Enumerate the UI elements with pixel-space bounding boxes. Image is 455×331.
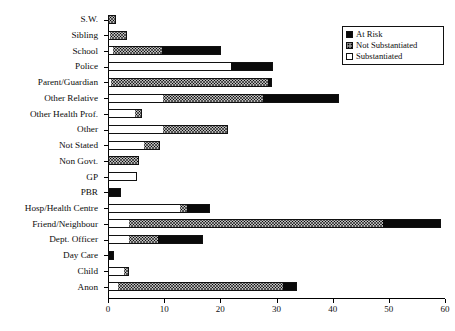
x-tick-label-60: 60 xyxy=(441,304,450,314)
category-label: Not Stated xyxy=(59,140,98,150)
bar-row xyxy=(108,31,127,40)
category-label: School xyxy=(72,46,98,56)
bar-segment-at-risk xyxy=(263,94,339,103)
bar-segment-substantiated xyxy=(108,125,164,134)
category-label: Child xyxy=(78,266,98,276)
category-label: Other xyxy=(77,124,98,134)
x-tick-0 xyxy=(108,299,109,303)
bar-segment-substantiated xyxy=(108,62,232,71)
x-tick-label-10: 10 xyxy=(160,304,169,314)
bar-row xyxy=(108,125,228,134)
category-label: Parent/Guardian xyxy=(38,77,98,87)
bar-row xyxy=(108,15,116,24)
legend-item-at-risk: At Risk xyxy=(346,29,440,39)
chart-legend: At Risk Not Substantiated Substantiated xyxy=(342,26,444,65)
category-label: S.W. xyxy=(80,14,98,24)
x-tick-20 xyxy=(220,299,221,303)
x-tick-60 xyxy=(445,299,446,303)
bar-row xyxy=(108,267,129,276)
x-tick-30 xyxy=(277,299,278,303)
category-label: Hosp/Health Centre xyxy=(25,203,98,213)
bar-row xyxy=(108,62,273,71)
bar-segment-not-substantiated xyxy=(144,141,161,150)
horizontal-stacked-bar-chart: 0102030405060 S.W.SiblingSchoolPolicePar… xyxy=(0,0,455,331)
bar-row xyxy=(108,219,441,228)
legend-item-substantiated: Substantiated xyxy=(346,51,440,61)
bar-row xyxy=(108,251,114,260)
empty-white-swatch-icon xyxy=(346,53,353,60)
category-label: Anon xyxy=(78,282,98,292)
bar-row xyxy=(108,46,221,55)
bar-segment-substantiated xyxy=(108,172,137,181)
category-label: PBR xyxy=(81,187,98,197)
legend-item-not-substantiated: Not Substantiated xyxy=(346,40,440,50)
bar-row xyxy=(108,78,272,87)
category-label: Other Health Prof. xyxy=(30,109,98,119)
category-label: Other Relative xyxy=(44,93,98,103)
category-label: GP xyxy=(86,172,98,182)
bar-segment-substantiated xyxy=(108,235,130,244)
category-label: Day Care xyxy=(63,250,98,260)
bar-segment-not-substantiated xyxy=(118,282,284,291)
bar-segment-substantiated xyxy=(108,94,164,103)
bar-segment-not-substantiated xyxy=(129,235,159,244)
bar-segment-substantiated xyxy=(108,109,136,118)
bar-segment-not-substantiated xyxy=(113,46,164,55)
bar-segment-substantiated xyxy=(108,141,145,150)
x-tick-label-50: 50 xyxy=(384,304,393,314)
bar-segment-not-substantiated xyxy=(111,78,268,87)
bar-segment-at-risk xyxy=(108,188,121,197)
x-tick-label-30: 30 xyxy=(272,304,281,314)
bar-segment-not-substantiated xyxy=(108,156,139,165)
bar-segment-at-risk xyxy=(268,78,272,87)
bar-segment-not-substantiated xyxy=(109,15,116,24)
category-label: Police xyxy=(75,61,98,71)
bar-segment-not-substantiated xyxy=(163,94,264,103)
bar-row xyxy=(108,109,142,118)
category-label: Dept. Officer xyxy=(49,234,98,244)
x-tick-50 xyxy=(389,299,390,303)
x-tick-label-20: 20 xyxy=(216,304,225,314)
stippled-gray-swatch-icon xyxy=(346,42,353,49)
bar-row xyxy=(108,94,339,103)
bar-row xyxy=(108,235,203,244)
bar-segment-not-substantiated xyxy=(124,267,130,276)
bar-row xyxy=(108,188,121,197)
category-label: Sibling xyxy=(71,30,98,40)
bar-row xyxy=(108,141,160,150)
bar-row xyxy=(108,204,210,213)
bar-segment-substantiated xyxy=(108,267,125,276)
bar-segment-substantiated xyxy=(108,204,181,213)
bar-segment-at-risk xyxy=(231,62,273,71)
legend-label-substantiated: Substantiated xyxy=(356,51,402,61)
bar-row xyxy=(108,282,297,291)
bar-segment-not-substantiated xyxy=(129,219,383,228)
bar-row xyxy=(108,156,139,165)
legend-label-not-substantiated: Not Substantiated xyxy=(356,40,417,50)
bar-segment-at-risk xyxy=(383,219,441,228)
bar-segment-not-substantiated xyxy=(110,31,127,40)
bar-segment-at-risk xyxy=(158,235,203,244)
x-tick-10 xyxy=(164,299,165,303)
bar-segment-at-risk xyxy=(283,282,297,291)
bar-segment-at-risk xyxy=(141,109,143,118)
solid-black-swatch-icon xyxy=(346,31,353,38)
bar-segment-not-substantiated xyxy=(163,125,228,134)
category-label: Non Govt. xyxy=(59,156,98,166)
bar-segment-at-risk xyxy=(162,46,221,55)
x-tick-40 xyxy=(333,299,334,303)
bar-row xyxy=(108,172,137,181)
bar-segment-at-risk xyxy=(108,251,114,260)
x-tick-label-0: 0 xyxy=(106,304,111,314)
category-label: Friend/Neighbour xyxy=(32,219,98,229)
x-tick-label-40: 40 xyxy=(328,304,337,314)
bar-segment-substantiated xyxy=(108,219,130,228)
legend-label-at-risk: At Risk xyxy=(356,29,383,39)
bar-segment-at-risk xyxy=(187,204,209,213)
